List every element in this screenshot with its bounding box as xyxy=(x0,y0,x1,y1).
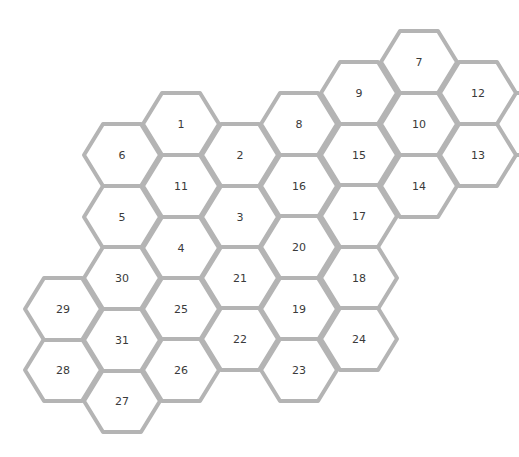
hexagon-grid-canvas: 1234567891011121314151617181920212223242… xyxy=(0,0,519,457)
hex-label: 8 xyxy=(296,118,303,131)
hex-label: 31 xyxy=(115,334,129,347)
hex-label: 13 xyxy=(471,149,485,162)
hex-label: 24 xyxy=(352,333,366,346)
hex-label: 28 xyxy=(56,364,70,377)
hex-label: 20 xyxy=(292,241,306,254)
hex-label: 26 xyxy=(174,364,188,377)
hex-label: 23 xyxy=(292,364,306,377)
hex-label: 3 xyxy=(237,211,244,224)
hex-label: 21 xyxy=(233,272,247,285)
hex-cell-24: 24 xyxy=(321,308,397,370)
hex-cell-30: 30 xyxy=(84,247,160,309)
hexagon-grid-diagram: 1234567891011121314151617181920212223242… xyxy=(0,0,519,457)
hex-label: 22 xyxy=(233,333,247,346)
hex-label: 10 xyxy=(412,118,426,131)
hex-label: 6 xyxy=(119,149,126,162)
hex-label: 27 xyxy=(115,395,129,408)
hex-cell-12: 12 xyxy=(440,62,516,124)
hex-cell-31: 31 xyxy=(84,309,160,371)
hex-label: 12 xyxy=(471,87,485,100)
hex-label: 19 xyxy=(292,303,306,316)
hex-label: 16 xyxy=(292,180,306,193)
hex-label: 5 xyxy=(119,211,126,224)
hex-label: 25 xyxy=(174,303,188,316)
hex-label: 7 xyxy=(416,56,423,69)
hex-label: 9 xyxy=(356,87,363,100)
hex-label: 1 xyxy=(178,118,185,131)
hex-label: 2 xyxy=(237,149,244,162)
hex-label: 14 xyxy=(412,180,426,193)
hex-label: 18 xyxy=(352,272,366,285)
hex-label: 17 xyxy=(352,210,366,223)
hex-label: 4 xyxy=(178,242,185,255)
hex-cell-11: 11 xyxy=(143,155,219,217)
hex-label: 30 xyxy=(115,272,129,285)
hex-label: 29 xyxy=(56,303,70,316)
hex-label: 15 xyxy=(352,149,366,162)
hex-label: 11 xyxy=(174,180,188,193)
